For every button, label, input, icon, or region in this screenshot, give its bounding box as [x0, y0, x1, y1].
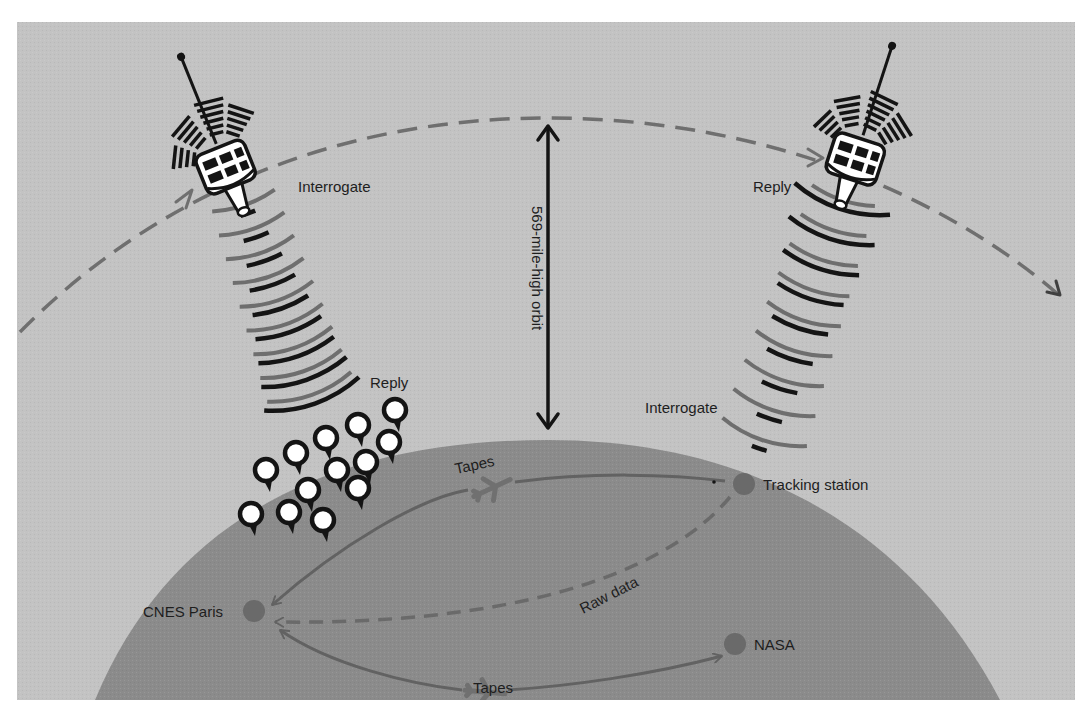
- node-cnes-paris: [243, 600, 265, 622]
- label-right-interrogate: Interrogate: [645, 399, 718, 416]
- paper-texture: [17, 22, 1075, 700]
- label-tracking-station: Tracking station: [763, 476, 868, 493]
- label-cnes-paris: CNES Paris: [143, 603, 223, 620]
- orbit-altitude-label: 569-mile-high orbit: [529, 206, 546, 331]
- label-right-reply: Reply: [753, 178, 792, 195]
- label-tapes-lower: Tapes: [473, 679, 513, 696]
- node-nasa: [724, 633, 746, 655]
- label-left-interrogate: Interrogate: [298, 178, 371, 195]
- node-tracking-station: [733, 473, 755, 495]
- label-nasa: NASA: [754, 636, 795, 653]
- satellite-diagram: 569-mile-high orbit: [0, 0, 1089, 721]
- label-left-reply: Reply: [370, 374, 409, 391]
- marker-dot: [712, 480, 716, 484]
